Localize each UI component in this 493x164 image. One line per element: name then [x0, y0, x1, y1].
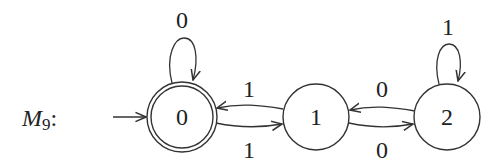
edge-1-to-2: [349, 123, 413, 127]
state-1-label: 1: [310, 104, 322, 130]
edge-0-to-1: [216, 123, 282, 127]
edge-label-1-to-0: 1: [243, 76, 255, 102]
state-0: 0: [147, 82, 217, 152]
edge-2-to-1: [350, 107, 415, 111]
edge-label-1-to-2: 0: [376, 137, 388, 163]
edge-1-to-0: [217, 105, 283, 109]
edge-label-2-to-1: 0: [376, 76, 388, 102]
self-loop-state-2: [437, 44, 461, 84]
loop-label-state-2: 1: [442, 14, 454, 40]
state-2: 2: [414, 84, 480, 150]
machine-label: M9:: [21, 105, 57, 134]
state-1: 1: [283, 84, 349, 150]
edge-label-0-to-1: 1: [243, 137, 255, 163]
state-0-label: 0: [176, 104, 188, 130]
self-loop-state-0: [170, 38, 196, 83]
state-2-label: 2: [441, 104, 453, 130]
loop-label-state-0: 0: [176, 7, 188, 33]
state-diagram: M9: 0 1 1 0 0 1 0 1 2: [0, 0, 493, 164]
